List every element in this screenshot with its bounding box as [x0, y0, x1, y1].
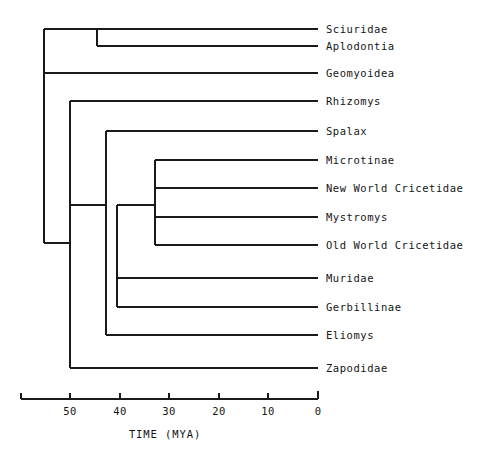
taxon-label-spalax: Spalax — [326, 126, 367, 137]
taxon-label-old-world-cricetidae: Old World Cricetidae — [326, 240, 463, 251]
axis-tick-label-40: 40 — [100, 406, 140, 417]
axis-tick-label-30: 30 — [149, 406, 189, 417]
tree-lines — [21, 29, 318, 399]
taxon-label-new-world-cricetidae: New World Cricetidae — [326, 183, 463, 194]
taxon-label-gerbillinae: Gerbillinae — [326, 302, 402, 313]
taxon-label-microtinae: Microtinae — [326, 155, 395, 166]
taxon-label-rhizomys: Rhizomys — [326, 96, 381, 107]
axis-tick-label-0: 0 — [298, 406, 338, 417]
axis-tick-label-50: 50 — [50, 406, 90, 417]
taxon-label-eliomys: Eliomys — [326, 330, 374, 341]
cladogram-figure: Sciuridae Aplodontia Geomyoidea Rhizomys… — [0, 0, 481, 450]
taxon-label-muridae: Muridae — [326, 273, 374, 284]
axis-tick-label-10: 10 — [248, 406, 288, 417]
axis-tick-label-20: 20 — [199, 406, 239, 417]
taxon-label-aplodontia: Aplodontia — [326, 41, 395, 52]
axis-title: TIME (MYA) — [105, 429, 225, 440]
taxon-label-zapodidae: Zapodidae — [326, 363, 388, 374]
taxon-label-sciuridae: Sciuridae — [326, 24, 388, 35]
taxon-label-geomyoidea: Geomyoidea — [326, 68, 395, 79]
taxon-label-mystromys: Mystromys — [326, 212, 388, 223]
tree-branches-group — [0, 0, 481, 450]
